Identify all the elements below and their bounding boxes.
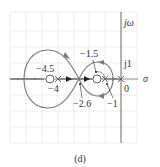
real-axis-label: σ [143,73,149,84]
root-locus-plot: jω σ j1 0 −4.5 −4 −1.5 −2.6 −1 [0,0,160,167]
j1-label: j1 [123,58,132,69]
locus-dot [34,78,37,81]
imag-axis-label: jω [122,17,134,28]
zero-marker-icon [46,75,54,83]
zero-label-minus-4-5: −4.5 [36,63,54,74]
origin-label: 0 [124,83,129,94]
zero-label-minus-1-5: −1.5 [80,48,98,59]
zero-marker-icon [93,75,101,83]
locus-dot [17,78,20,81]
arrow-icon [112,77,117,81]
arrow-icon [63,52,70,59]
pole-label-minus-4: −4 [48,83,59,94]
arrow-icon [98,93,104,99]
arrow-icon [66,76,72,82]
grid [10,12,137,143]
pole-label-minus-1: −1 [107,98,118,109]
leader-line [80,84,82,98]
breakpoint-label-minus-2-6: −2.6 [73,98,91,109]
figure-caption: (d) [0,153,160,164]
